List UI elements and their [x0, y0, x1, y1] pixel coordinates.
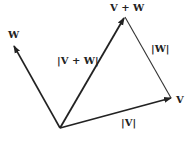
edge-w-translated: [125, 17, 171, 98]
vector-diagram: W V + W |V + W| |W| V |V|: [0, 0, 188, 143]
vector-v-arrow: [60, 98, 171, 128]
vector-w-arrow: [14, 46, 60, 128]
label-v-plus-w: V + W: [109, 2, 145, 13]
label-magnitude-v: |V|: [121, 117, 136, 129]
label-w: W: [7, 29, 20, 40]
diagram-canvas: W V + W |V + W| |W| V |V|: [0, 0, 188, 143]
label-v: V: [175, 94, 184, 105]
vector-v-plus-w-arrow: [60, 18, 124, 128]
label-magnitude-w: |W|: [151, 43, 170, 55]
label-magnitude-v-plus-w: |V + W|: [57, 55, 99, 67]
